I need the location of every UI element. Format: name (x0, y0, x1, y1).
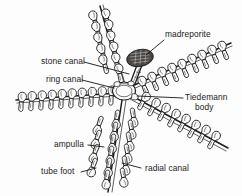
label-tiedemann-line1: Tiedemann (185, 92, 228, 102)
label-tube-foot: tube foot (41, 167, 75, 177)
label-ring-canal: ring canal (46, 75, 83, 85)
label-tiedemann-line2: body (185, 103, 214, 113)
label-ampulla: ampulla (54, 140, 84, 150)
water-vascular-system-figure: madreporite stone canal ring canal Tiede… (0, 0, 242, 196)
arm-left (16, 86, 118, 112)
arm-upper-left (88, 5, 127, 85)
podia-left (17, 86, 117, 112)
leader-madreporite (146, 40, 164, 55)
podia-upper-left (88, 8, 127, 84)
label-tiedemann-body: Tiedemann body (185, 93, 239, 112)
label-madreporite: madreporite (165, 30, 211, 40)
podia-lower (86, 107, 139, 189)
leader-ring-canal (82, 80, 114, 88)
arm-upper-right (132, 40, 232, 96)
label-radial-canal: radial canal (145, 164, 189, 174)
label-stone-canal: stone canal (41, 57, 85, 67)
madreporite-structure (125, 47, 155, 69)
